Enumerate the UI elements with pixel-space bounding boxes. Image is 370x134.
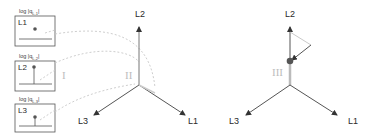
panel-l1-dot [33, 27, 37, 31]
diagram-canvas: log |qL,1| L1 log |qL,2| L2 log |qL,3| L… [0, 0, 370, 134]
right-label-l3: L3 [229, 116, 239, 126]
projection-arcs [40, 30, 155, 120]
panel-l3-label: L3 [18, 106, 27, 115]
panel-l2: log |qL,2| L2 [15, 53, 55, 91]
right-result-dot [287, 58, 294, 65]
right-label-l1: L1 [348, 116, 358, 126]
panel-l2-dot [32, 65, 36, 69]
region-label-ii: II [125, 69, 133, 81]
region-label-iii: III [272, 66, 283, 78]
left-label-l2: L2 [135, 9, 145, 19]
panel-l3: log |qL,3| L3 [15, 96, 55, 132]
right-axes: L2 L3 L1 III [229, 9, 358, 126]
panel-l2-title: log |qL,2| [19, 53, 39, 61]
panel-l3-dot [33, 115, 37, 119]
panel-l1-title: log |qL,1| [19, 8, 39, 16]
left-label-l3: L3 [78, 116, 88, 126]
right-axis-l3 [246, 85, 290, 115]
panel-l3-title: log |qL,3| [19, 96, 39, 104]
region-label-i: I [62, 69, 66, 81]
left-label-l1: L1 [188, 116, 198, 126]
left-axis-l1-highlight [139, 85, 155, 93]
panel-l1-label: L1 [18, 18, 27, 27]
right-vector-segment-1 [290, 32, 311, 45]
left-axes: L2 L3 L1 I II [62, 9, 198, 126]
panel-l2-label: L2 [18, 63, 27, 72]
right-axis-l1 [290, 85, 337, 115]
arc-l2 [55, 51, 139, 63]
panel-l1: log |qL,1| L1 [15, 8, 55, 46]
left-axis-l3 [94, 85, 139, 115]
arc-l1 [55, 31, 155, 88]
right-vector-segment-2 [292, 45, 311, 60]
left-axis-l1 [139, 85, 185, 115]
right-label-l2: L2 [285, 9, 295, 19]
arc-l3 [55, 84, 135, 112]
